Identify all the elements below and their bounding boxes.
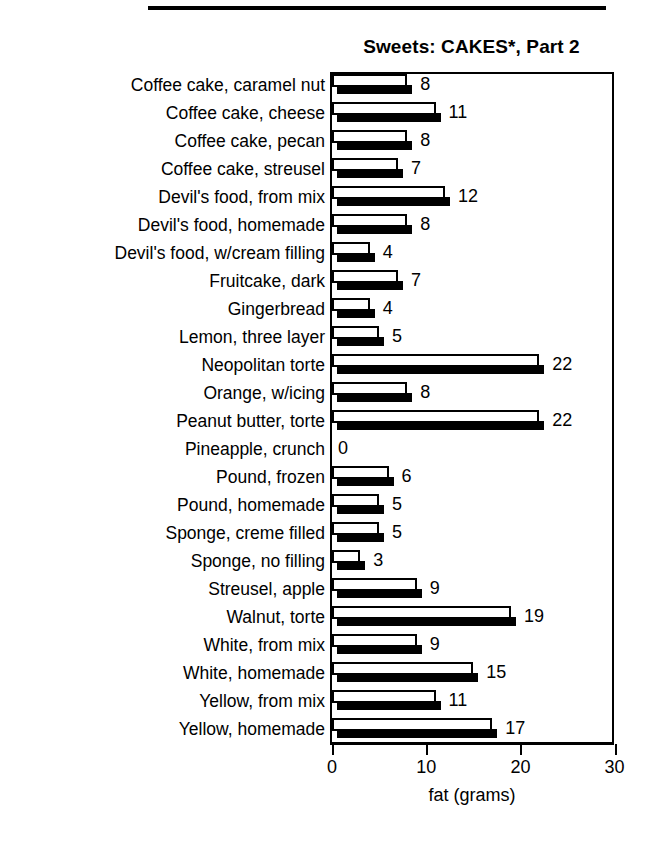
bar [332, 494, 379, 507]
bar-value-label: 4 [383, 297, 393, 319]
category-label: Yellow, homemade [179, 718, 325, 740]
bar [332, 718, 492, 731]
bar-row: Streusel, apple9 [0, 576, 659, 604]
bar [332, 326, 379, 339]
chart-page: Sweets: CAKES*, Part 2 Coffee cake, cara… [0, 0, 659, 851]
bar-value-label: 5 [392, 493, 402, 515]
bar-value-label: 8 [420, 73, 430, 95]
bar [332, 690, 436, 703]
bar-value-label: 11 [449, 689, 468, 711]
bar-value-label: 0 [338, 437, 348, 459]
bar [332, 382, 407, 395]
bar-value-label: 19 [524, 605, 544, 627]
bar-group [332, 548, 368, 576]
bar [332, 270, 398, 283]
bar-row: Coffee cake, cheese11 [0, 100, 659, 128]
category-label: Gingerbread [228, 298, 325, 320]
category-label: Walnut, torte [226, 606, 325, 628]
category-label: Fruitcake, dark [209, 270, 325, 292]
bar-value-label: 7 [411, 269, 421, 291]
category-label: Pound, frozen [216, 466, 325, 488]
category-label: Pound, homemade [177, 494, 325, 516]
chart-title: Sweets: CAKES*, Part 2 [330, 36, 613, 58]
bar [332, 410, 539, 423]
bar [332, 242, 370, 255]
bar-row: Peanut butter, torte22 [0, 408, 659, 436]
bar [332, 634, 417, 647]
bar-value-label: 15 [486, 661, 506, 683]
category-label: Yellow, from mix [199, 690, 325, 712]
bar-row: Coffee cake, streusel7 [0, 156, 659, 184]
bar-row: Orange, w/icing8 [0, 380, 659, 408]
bar-row: Sponge, creme filled5 [0, 520, 659, 548]
category-label: Peanut butter, torte [176, 410, 325, 432]
bar [332, 354, 539, 367]
bar-value-label: 11 [449, 101, 468, 123]
bar-group [332, 184, 453, 212]
bar-row: Coffee cake, caramel nut8 [0, 72, 659, 100]
category-label: Coffee cake, pecan [175, 130, 325, 152]
bar-row: Devil's food, w/cream filling4 [0, 240, 659, 268]
header-divider-rule [148, 6, 606, 10]
bar [332, 298, 370, 311]
bar-value-label: 5 [392, 325, 402, 347]
bar-group [332, 576, 425, 604]
bar-row: Gingerbread4 [0, 296, 659, 324]
category-label: Coffee cake, streusel [161, 158, 325, 180]
bar-group [332, 408, 547, 436]
x-axis-tick-label: 20 [500, 756, 540, 778]
x-axis-line [330, 742, 614, 745]
bar-group [332, 240, 378, 268]
x-axis-tick [332, 744, 334, 755]
category-label: White, homemade [183, 662, 325, 684]
bar-row: Devil's food, from mix12 [0, 184, 659, 212]
bar-value-label: 8 [420, 213, 430, 235]
bar-group [332, 72, 415, 100]
x-axis-tick-label: 0 [312, 756, 352, 778]
category-label: Orange, w/icing [203, 382, 325, 404]
bar-value-label: 22 [552, 353, 572, 375]
bar-row: White, homemade15 [0, 660, 659, 688]
bar [332, 466, 389, 479]
bar-group [332, 268, 406, 296]
x-axis-label: fat (grams) [330, 785, 614, 806]
bar-row: Lemon, three layer5 [0, 324, 659, 352]
bar [332, 606, 511, 619]
bar-value-label: 9 [430, 577, 440, 599]
bar-row: Pound, homemade5 [0, 492, 659, 520]
bar-row: Yellow, homemade17 [0, 716, 659, 744]
bar-group [332, 212, 415, 240]
bar-group [332, 352, 547, 380]
bar-group [332, 632, 425, 660]
bar-value-label: 17 [505, 717, 525, 739]
bar-group [332, 604, 519, 632]
x-axis-tick-label: 30 [595, 756, 635, 778]
bar-row: Walnut, torte19 [0, 604, 659, 632]
category-label: Neopolitan torte [201, 354, 325, 376]
bar-group [332, 716, 500, 744]
x-axis-tick [520, 744, 522, 755]
bar-group [332, 296, 378, 324]
x-axis-tick [615, 744, 617, 755]
category-label: Streusel, apple [208, 578, 325, 600]
bar-value-label: 8 [420, 129, 430, 151]
bar [332, 522, 379, 535]
category-label: Sponge, no filling [191, 550, 325, 572]
bar [332, 130, 407, 143]
bar-value-label: 7 [411, 157, 421, 179]
bar [332, 74, 407, 87]
bar-row: Coffee cake, pecan8 [0, 128, 659, 156]
bar-value-label: 6 [402, 465, 412, 487]
bar-row: Pound, frozen6 [0, 464, 659, 492]
bar [332, 214, 407, 227]
bar-group [332, 492, 387, 520]
bar-value-label: 5 [392, 521, 402, 543]
bar-value-label: 9 [430, 633, 440, 655]
bar-row: Devil's food, homemade8 [0, 212, 659, 240]
bar-group [332, 156, 406, 184]
category-label: Pineapple, crunch [185, 438, 325, 460]
bar-group [332, 100, 444, 128]
bar-row: Fruitcake, dark7 [0, 268, 659, 296]
bar [332, 662, 473, 675]
category-label: Devil's food, from mix [158, 186, 325, 208]
